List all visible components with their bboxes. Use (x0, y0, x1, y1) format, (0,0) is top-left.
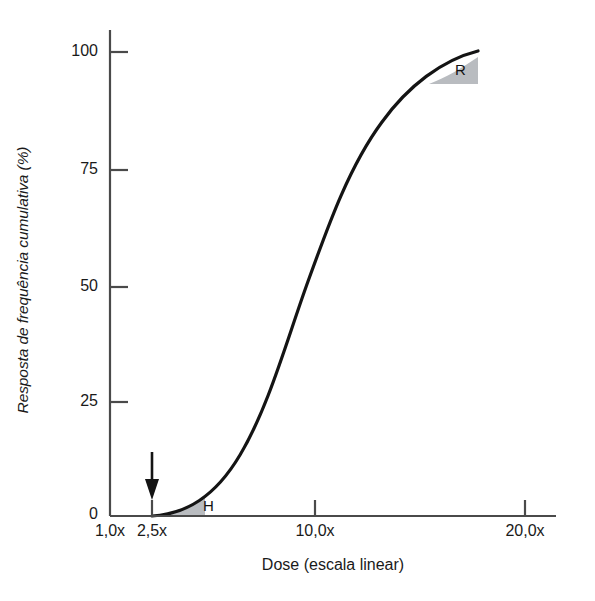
y-tick-label-0: 0 (52, 505, 98, 523)
chart-figure: Resposta de frequência cumulativa (%) Do… (0, 0, 595, 601)
y-tick-label-75: 75 (52, 160, 98, 178)
x-tick-label-20x: 20,0x (490, 522, 560, 540)
x-axis-title: Dose (escala linear) (110, 556, 556, 574)
y-tick-label-25: 25 (52, 392, 98, 410)
y-axis-title-text: Resposta de frequência cumulativa (%) (14, 50, 32, 510)
y-tick-label-100: 100 (52, 42, 98, 60)
y-tick-label-50: 50 (52, 277, 98, 295)
region-r-label: R (455, 61, 466, 78)
y-axis-title: Resposta de frequência cumulativa (%) (14, 50, 48, 510)
x-tick-label-10x: 10,0x (280, 522, 350, 540)
x-tick-label-2-5x: 2,5x (117, 522, 187, 540)
region-h-label: H (203, 497, 214, 514)
